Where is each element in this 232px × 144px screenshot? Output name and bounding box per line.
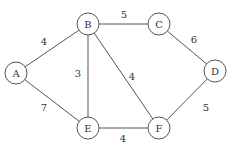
edge-weights: 45634745 <box>41 9 209 144</box>
edge-weight-e-f: 4 <box>120 133 126 144</box>
node-b: B <box>77 13 99 35</box>
nodes: ABCDEF <box>5 13 226 139</box>
edge-weight-b-e: 3 <box>75 68 81 79</box>
node-f: F <box>148 117 170 139</box>
edge-weight-a-e: 7 <box>41 102 47 113</box>
edge-weight-d-f: 5 <box>203 102 209 113</box>
edge-weight-b-c: 5 <box>121 9 127 20</box>
edge-b-f <box>94 33 153 119</box>
edges <box>25 24 208 128</box>
edge-weight-b-f: 4 <box>129 71 135 82</box>
node-label: C <box>155 19 163 30</box>
node-label: B <box>84 19 91 30</box>
edge-a-b <box>25 30 79 67</box>
edge-d-f <box>167 79 208 120</box>
node-label: A <box>11 68 20 79</box>
node-a: A <box>5 62 27 84</box>
node-label: E <box>84 123 91 134</box>
node-e: E <box>77 117 99 139</box>
edge-weight-a-b: 4 <box>41 36 47 47</box>
node-label: F <box>156 123 163 134</box>
edge-c-d <box>167 31 206 64</box>
node-d: D <box>204 60 226 82</box>
node-label: D <box>211 66 219 77</box>
node-c: C <box>148 13 170 35</box>
weighted-graph: 45634745 ABCDEF <box>0 0 232 144</box>
edge-weight-c-d: 6 <box>191 34 197 45</box>
edge-a-e <box>25 80 80 122</box>
